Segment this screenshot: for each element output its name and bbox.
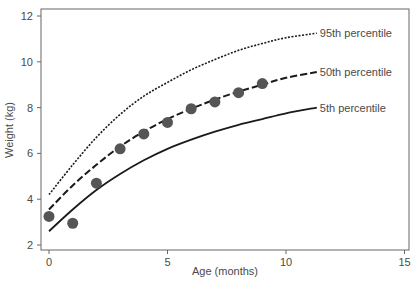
data-point	[233, 87, 244, 98]
percentile-curve	[49, 108, 317, 232]
y-tick-label: 12	[21, 10, 33, 22]
curve-labels: 95th percentile50th percentile5th percen…	[320, 27, 392, 113]
y-tick-label: 2	[27, 239, 33, 251]
y-tick-label: 6	[27, 147, 33, 159]
data-point	[186, 103, 197, 114]
data-point	[44, 211, 55, 222]
growth-chart: 24681012 051015 95th percentile50th perc…	[0, 0, 417, 288]
data-point	[115, 143, 126, 154]
percentile-curve	[49, 72, 317, 209]
y-tick-label: 8	[27, 102, 33, 114]
curve-label: 95th percentile	[320, 27, 392, 39]
data-point	[67, 218, 78, 229]
percentile-curves	[49, 33, 317, 231]
x-tick-label: 0	[46, 256, 52, 268]
y-axis-label: Weight (kg)	[3, 102, 15, 158]
x-tick-label: 15	[398, 256, 410, 268]
curve-label: 50th percentile	[320, 66, 392, 78]
y-axis: 24681012	[21, 10, 41, 251]
data-point	[138, 128, 149, 139]
x-axis-label: Age (months)	[192, 265, 258, 277]
x-tick-label: 5	[164, 256, 170, 268]
y-tick-label: 4	[27, 193, 33, 205]
curve-label: 5th percentile	[320, 102, 386, 114]
data-point	[257, 78, 268, 89]
y-tick-label: 10	[21, 56, 33, 68]
data-point	[162, 117, 173, 128]
data-point	[209, 96, 220, 107]
data-point	[91, 178, 102, 189]
x-tick-label: 10	[280, 256, 292, 268]
